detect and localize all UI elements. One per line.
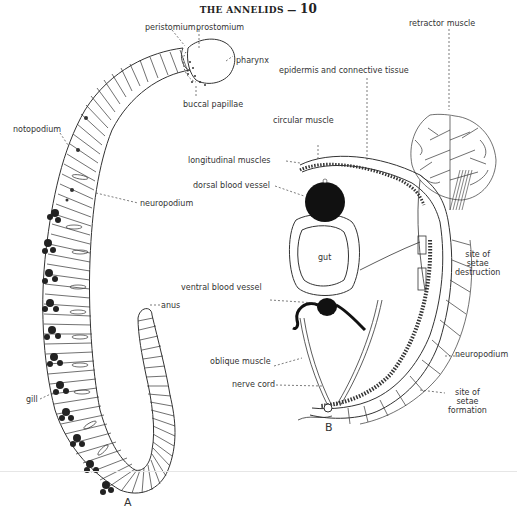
label-prostomium: prostomium bbox=[196, 23, 244, 32]
label-longitudinal-muscles: longitudinal muscles bbox=[188, 156, 270, 165]
retractor-muscle-tree bbox=[411, 114, 496, 210]
label-anus: anus bbox=[161, 301, 180, 310]
label-ventral-blood-vessel: ventral blood vessel bbox=[181, 283, 262, 292]
label-dorsal-blood-vessel: dorsal blood vessel bbox=[193, 181, 270, 190]
panel-label-a: A bbox=[124, 496, 132, 509]
gill-clusters bbox=[42, 209, 114, 495]
annelid-illustration bbox=[0, 0, 517, 510]
label-pharynx: pharynx bbox=[236, 56, 269, 65]
label-circular-muscle: circular muscle bbox=[273, 116, 334, 125]
label-epidermis-connective-tissue: epidermis and connective tissue bbox=[279, 66, 409, 75]
label-gut: gut bbox=[318, 253, 331, 262]
label-nerve-cord: nerve cord bbox=[232, 380, 275, 389]
label-oblique-muscle: oblique muscle bbox=[210, 357, 271, 366]
label-neuropodium-b: neuropodium bbox=[455, 350, 508, 359]
label-buccal-papillae: buccal papillae bbox=[183, 100, 243, 109]
label-retractor-muscle: retractor muscle bbox=[409, 19, 475, 28]
notopodia-marks bbox=[66, 116, 89, 202]
label-peristomium: peristomium bbox=[145, 23, 196, 32]
label-site-setae-destruction: site of setae destruction bbox=[455, 250, 500, 277]
label-gill: gill bbox=[26, 395, 38, 404]
page-divider bbox=[0, 471, 517, 472]
label-site-setae-formation: site of setae formation bbox=[448, 388, 487, 415]
label-notopodium: notopodium bbox=[13, 125, 61, 134]
dorsal-blood-vessel-shape bbox=[305, 182, 345, 222]
panel-label-b: B bbox=[325, 421, 333, 434]
label-neuropodium-a: neuropodium bbox=[140, 199, 193, 208]
ventral-blood-vessel-shape bbox=[317, 298, 337, 316]
